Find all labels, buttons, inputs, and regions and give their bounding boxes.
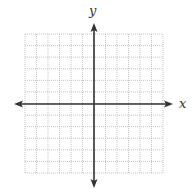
coordinate-plane: x y (0, 0, 195, 193)
coordinate-plane-svg: x y (0, 0, 195, 193)
axes (14, 23, 173, 188)
y-axis-label: y (88, 3, 97, 18)
x-axis-label: x (179, 96, 187, 111)
